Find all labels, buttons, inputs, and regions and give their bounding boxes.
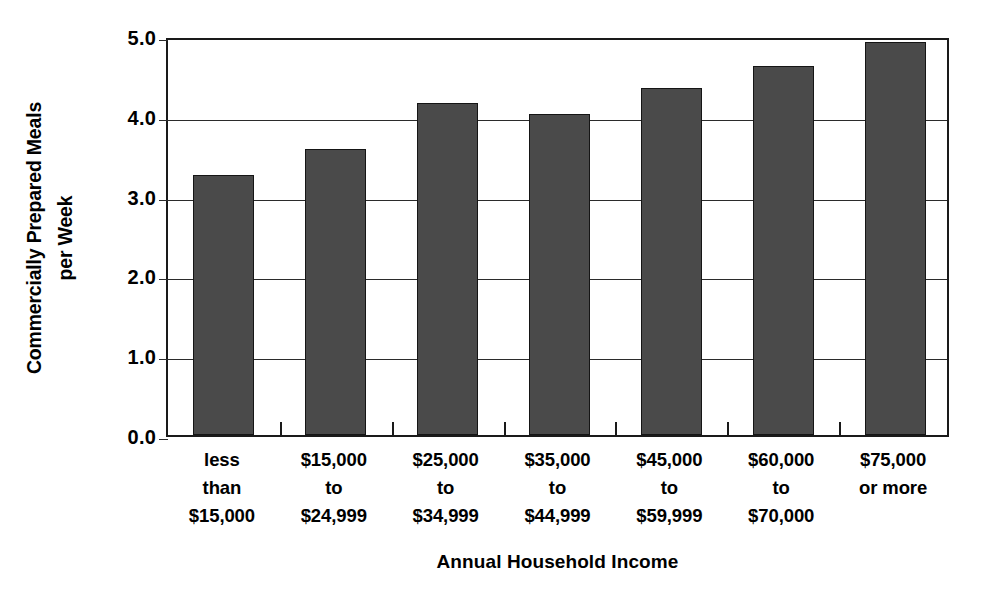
x-tick-label-line: $59,999 bbox=[613, 502, 725, 530]
x-tick-label-line: $15,000 bbox=[166, 502, 278, 530]
bar bbox=[753, 66, 814, 435]
y-tick-label-5: 5.0 bbox=[92, 27, 156, 50]
y-tick-mark-4.0 bbox=[159, 120, 168, 121]
y-axis-title-line-2: per Week bbox=[50, 101, 81, 373]
x-tick-mark bbox=[392, 422, 394, 435]
x-tick-label-line: $60,000 bbox=[725, 446, 837, 474]
y-axis-tick-labels: 0.0 1.0 2.0 3.0 4.0 5.0 bbox=[92, 0, 156, 593]
x-tick-mark bbox=[280, 422, 282, 435]
x-tick-label-line: than bbox=[166, 474, 278, 502]
y-axis-title-line-1: Commercially Prepared Meals bbox=[23, 101, 45, 373]
x-tick-label: $60,000to$70,000 bbox=[725, 446, 837, 530]
x-tick-label-line: $25,000 bbox=[390, 446, 502, 474]
x-axis-tick-labels: lessthan$15,000$15,000to$24,999$25,000to… bbox=[166, 446, 949, 536]
bar bbox=[305, 149, 366, 435]
x-tick-label-line: $24,999 bbox=[278, 502, 390, 530]
x-tick-label: $35,000to$44,999 bbox=[502, 446, 614, 530]
x-tick-label-line: to bbox=[725, 474, 837, 502]
x-tick-label: $45,000to$59,999 bbox=[613, 446, 725, 530]
x-tick-label-line: to bbox=[278, 474, 390, 502]
bar-chart-figure: Commercially Prepared Meals per Week 0.0… bbox=[0, 0, 996, 593]
x-tick-label: $75,000or more bbox=[837, 446, 949, 502]
bar bbox=[529, 114, 590, 435]
bar bbox=[865, 42, 926, 435]
y-tick-label-0: 0.0 bbox=[92, 426, 156, 449]
x-tick-label-line: to bbox=[502, 474, 614, 502]
plot-area bbox=[166, 38, 949, 437]
y-tick-mark-2.0 bbox=[159, 279, 168, 280]
x-tick-label-line: $15,000 bbox=[278, 446, 390, 474]
y-tick-label-3: 3.0 bbox=[92, 186, 156, 209]
y-tick-mark-3.0 bbox=[159, 200, 168, 201]
bar bbox=[417, 103, 478, 435]
bar bbox=[641, 88, 702, 435]
x-tick-label: $15,000to$24,999 bbox=[278, 446, 390, 530]
x-tick-mark bbox=[727, 422, 729, 435]
x-tick-label-line: less bbox=[166, 446, 278, 474]
x-tick-mark bbox=[504, 422, 506, 435]
x-tick-label-line: to bbox=[390, 474, 502, 502]
y-tick-label-2: 2.0 bbox=[92, 266, 156, 289]
x-tick-label: $25,000to$34,999 bbox=[390, 446, 502, 530]
x-tick-label-line: $35,000 bbox=[502, 446, 614, 474]
bar bbox=[193, 175, 254, 435]
x-tick-mark bbox=[615, 422, 617, 435]
y-tick-label-4: 4.0 bbox=[92, 106, 156, 129]
x-tick-label-line: $75,000 bbox=[837, 446, 949, 474]
y-tick-label-1: 1.0 bbox=[92, 346, 156, 369]
y-tick-mark-1.0 bbox=[159, 359, 168, 360]
x-tick-label-line: $45,000 bbox=[613, 446, 725, 474]
y-tick-mark-5.0 bbox=[159, 40, 168, 41]
x-tick-label-line: $44,999 bbox=[502, 502, 614, 530]
x-tick-label-line: to bbox=[613, 474, 725, 502]
x-tick-label: lessthan$15,000 bbox=[166, 446, 278, 530]
x-tick-mark bbox=[839, 422, 841, 435]
x-tick-label-line: $70,000 bbox=[725, 502, 837, 530]
x-axis-title: Annual Household Income bbox=[166, 551, 949, 573]
x-tick-label-line: $34,999 bbox=[390, 502, 502, 530]
y-tick-mark-0.0 bbox=[159, 439, 168, 440]
x-tick-label-line: or more bbox=[837, 474, 949, 502]
y-axis-title: Commercially Prepared Meals per Week bbox=[0, 38, 100, 437]
